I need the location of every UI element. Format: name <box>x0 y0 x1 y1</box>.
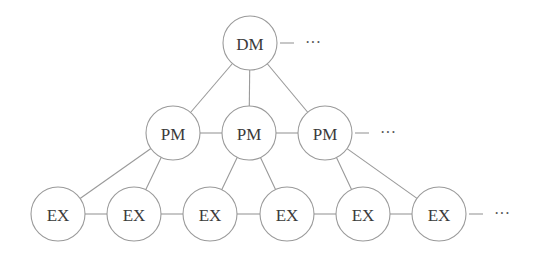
edge-pm3-ex5 <box>336 157 351 189</box>
node-ex1: EX <box>31 187 85 241</box>
node-label: DM <box>236 35 263 54</box>
node-pm2: PM <box>222 106 276 160</box>
edge-pm1-ex2 <box>146 157 162 189</box>
ellipsis-ex6: ··· <box>494 205 510 222</box>
node-label: EX <box>199 206 222 225</box>
edge-pm2-ex3 <box>222 157 238 189</box>
node-ex5: EX <box>336 187 390 241</box>
node-label: EX <box>276 206 299 225</box>
node-ex3: EX <box>183 187 237 241</box>
node-pm3: PM <box>298 106 352 160</box>
nodes-layer: DMPMPMPMEXEXEXEXEXEX <box>31 16 466 241</box>
ellipsis-pm3: ··· <box>380 124 396 141</box>
node-ex2: EX <box>107 187 161 241</box>
node-label: EX <box>47 206 70 225</box>
node-label: EX <box>123 206 146 225</box>
edge-dm-pm3 <box>267 64 307 113</box>
node-label: EX <box>352 206 375 225</box>
node-label: PM <box>313 125 338 144</box>
edge-pm2-ex4 <box>260 157 275 189</box>
node-label: PM <box>161 125 186 144</box>
ellipsis-dm: ··· <box>305 34 321 51</box>
edge-dm-pm1 <box>191 64 233 113</box>
node-label: PM <box>237 125 262 144</box>
node-label: EX <box>428 206 451 225</box>
node-ex4: EX <box>260 187 314 241</box>
hierarchy-diagram: ········· DMPMPMPMEXEXEXEXEXEX <box>0 0 539 267</box>
node-dm: DM <box>223 16 277 70</box>
node-ex6: EX <box>412 187 466 241</box>
node-pm1: PM <box>146 106 200 160</box>
